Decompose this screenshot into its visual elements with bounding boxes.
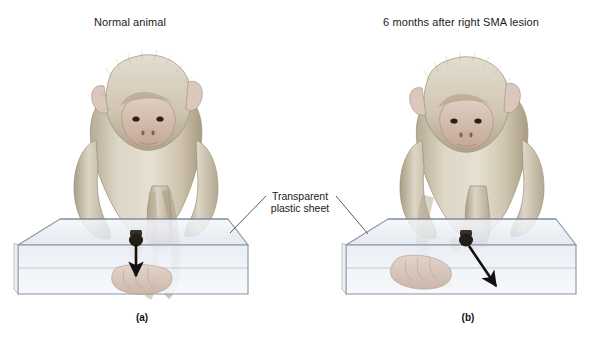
- monkey-figure-b: [400, 52, 544, 282]
- annotation-line-2: plastic sheet: [271, 202, 329, 214]
- panel-a-title: Normal animal: [94, 16, 166, 28]
- plastic-sheet-b: [342, 219, 576, 294]
- leader-line-left: [230, 196, 266, 233]
- panel-b-title: 6 months after right SMA lesion: [383, 16, 539, 28]
- transparent-sheet-annotation: Transparent plastic sheet: [271, 190, 329, 214]
- annotation-line-1: Transparent: [271, 190, 329, 202]
- figure-container: Normal animal 6 months after right SMA l…: [0, 0, 609, 343]
- arrow-a: [129, 230, 143, 276]
- leader-line-right: [336, 196, 368, 234]
- arrow-b: [459, 230, 496, 286]
- illustration-artwork: [0, 0, 609, 343]
- monkey-figure-a: [74, 50, 218, 298]
- panel-a-caption: (a): [136, 312, 148, 323]
- target-hand-b: [391, 255, 452, 289]
- plastic-sheet-a: [14, 219, 248, 294]
- panel-b-caption: (b): [462, 312, 475, 323]
- target-hand-a: [112, 265, 172, 295]
